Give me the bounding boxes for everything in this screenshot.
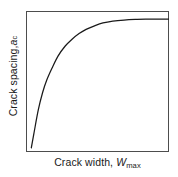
chart-figure: Crack spacing, ac Crack width, Wmax bbox=[0, 0, 178, 177]
x-axis-label-variable: W bbox=[116, 156, 126, 168]
plot-frame bbox=[27, 12, 169, 152]
y-axis-label-subscript: c bbox=[11, 36, 19, 40]
plot-area bbox=[26, 11, 169, 152]
y-axis-label: Crack spacing, ac bbox=[4, 0, 22, 152]
x-axis-label-text: Crack width, bbox=[54, 156, 116, 168]
y-axis-label-text: Crack spacing, bbox=[8, 46, 19, 117]
y-axis-label-variable: a bbox=[8, 40, 19, 46]
x-axis-label: Crack width, Wmax bbox=[26, 157, 169, 168]
plot-svg bbox=[26, 11, 169, 152]
x-axis-label-subscript: max bbox=[126, 161, 141, 170]
